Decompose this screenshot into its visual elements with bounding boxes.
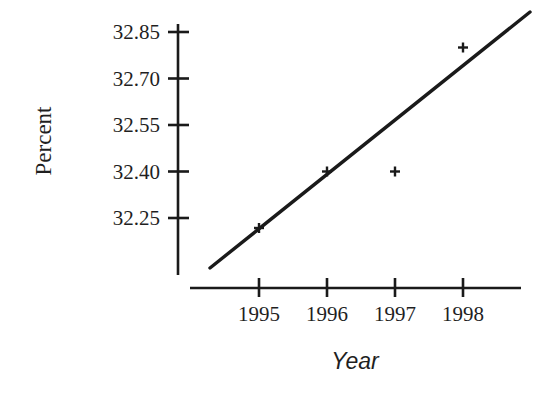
data-point-1996 [322,167,332,177]
y-tick-label-3: 32.40 [55,160,160,185]
y-axis-title: Percent [31,71,57,211]
scatter-plot-figure: 32.85 32.70 32.55 32.40 32.25 1995 1996 … [0,0,547,394]
plot-canvas [0,0,547,394]
y-tick-label-0: 32.85 [55,20,160,45]
x-tick-label-1998: 1998 [418,302,508,327]
y-tick-label-1: 32.70 [55,67,160,92]
x-axis-title: Year [190,348,520,375]
data-point-1998 [458,43,468,53]
y-tick-label-2: 32.55 [55,113,160,138]
y-tick-label-4: 32.25 [55,206,160,231]
data-point-1997 [390,167,400,177]
